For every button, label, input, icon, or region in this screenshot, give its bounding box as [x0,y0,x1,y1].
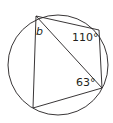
cyclic-quadrilateral [33,16,102,108]
angle-label-63: 63° [76,76,96,89]
angle-label-b: b [36,25,43,38]
angle-label-110: 110° [72,31,99,44]
diagram-canvas: b 110° 63° [0,0,113,123]
circumcircle [8,15,108,115]
